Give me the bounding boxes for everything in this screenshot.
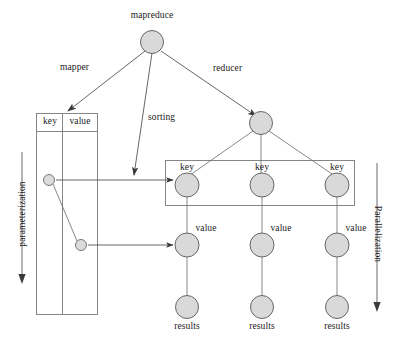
table-header-key: key	[43, 117, 57, 127]
node-key-2	[250, 173, 274, 197]
edge-mapper	[68, 51, 145, 111]
table-header-value: value	[69, 117, 90, 127]
node-results-1	[176, 296, 199, 319]
node-value-1	[175, 233, 199, 257]
edge-label-mapper: mapper	[60, 63, 89, 73]
node-table-entry-1	[44, 175, 55, 186]
node-label-mapreduce: mapreduce	[131, 11, 174, 21]
edge-reducer-key-3	[269, 131, 332, 174]
edge-small-circle-link	[53, 184, 77, 241]
input-key-value-table	[37, 114, 98, 315]
node-mapreduce	[141, 31, 164, 54]
edge-reducer-key-1	[190, 131, 253, 175]
node-label-key-1: key	[180, 163, 194, 173]
mapreduce-diagram: mapreduce mapper sorting reducer key val…	[0, 0, 398, 342]
node-label-value-1: value	[195, 224, 216, 234]
edge-reducer	[161, 51, 256, 116]
node-table-entry-2	[76, 240, 87, 251]
node-reducer	[250, 112, 273, 135]
node-label-key-2: key	[255, 163, 269, 173]
node-label-key-3: key	[330, 163, 344, 173]
node-results-3	[326, 296, 349, 319]
edge-label-reducer: reducer	[213, 64, 242, 74]
node-label-results-1: results	[174, 322, 200, 332]
node-label-value-2: value	[270, 224, 291, 234]
node-label-results-2: results	[249, 322, 275, 332]
node-label-value-3: value	[345, 224, 366, 234]
node-value-3	[325, 233, 349, 257]
node-results-2	[251, 296, 274, 319]
edge-label-sorting: sorting	[148, 113, 175, 123]
node-label-results-3: results	[324, 322, 350, 332]
node-key-3	[325, 173, 349, 197]
node-key-1	[175, 173, 199, 197]
axis-label-parallelization: Parallelization	[373, 206, 383, 262]
node-value-2	[250, 233, 274, 257]
axis-label-parameterization: parameterization	[18, 181, 28, 246]
